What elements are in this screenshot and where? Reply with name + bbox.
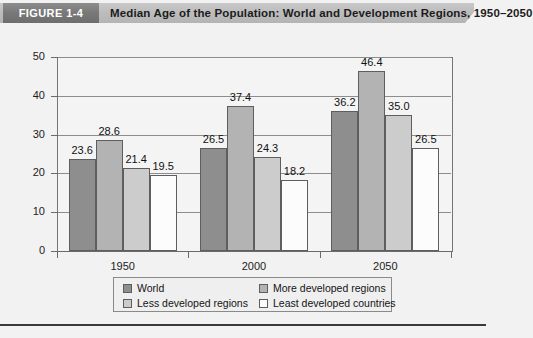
- y-axis-label-0: 0: [5, 244, 45, 256]
- bar-value-label: 24.3: [245, 142, 291, 154]
- chart-legend: WorldMore developed regionsLess develope…: [113, 277, 392, 312]
- legend-swatch-icon: [123, 299, 132, 308]
- figure-number-label: FIGURE 1-4: [3, 3, 99, 23]
- bar-value-label: 46.4: [349, 56, 395, 68]
- bar-value-label: 37.4: [218, 91, 264, 103]
- x-axis-line: [51, 251, 452, 252]
- x-tick-mark-end: [451, 252, 452, 258]
- y-tick-mark-40: [51, 96, 58, 97]
- y-tick-mark-20: [51, 173, 58, 174]
- legend-item-world[interactable]: World: [123, 281, 164, 296]
- legend-swatch-icon: [259, 284, 268, 293]
- y-axis-label-10: 10: [5, 205, 45, 217]
- figure-header: FIGURE 1-4 Median Age of the Population:…: [0, 0, 486, 26]
- figure-number-badge: FIGURE 1-4: [3, 3, 99, 23]
- bar-2050-more-developed-regions: [358, 71, 385, 251]
- x-tick-mark-2000: [188, 252, 189, 258]
- y-axis-label-50: 50: [5, 50, 45, 62]
- figure-title: Median Age of the Population: World and …: [110, 3, 533, 23]
- legend-swatch-icon: [123, 284, 132, 293]
- x-tick-mark-2050: [320, 252, 321, 258]
- legend-item-label: More developed regions: [273, 282, 386, 294]
- bar-value-label: 28.6: [86, 125, 132, 137]
- y-tick-mark-30: [51, 135, 58, 136]
- legend-item-label: Least developed countries: [273, 297, 396, 309]
- y-axis-label-20: 20: [5, 166, 45, 178]
- x-axis-label-1950: 1950: [83, 260, 163, 272]
- legend-item-less-developed-regions[interactable]: Less developed regions: [123, 296, 248, 311]
- legend-swatch-icon: [259, 299, 268, 308]
- y-tick-mark-10: [51, 212, 58, 213]
- bar-2000-more-developed-regions: [227, 106, 254, 251]
- bar-2050-world: [331, 111, 358, 251]
- x-axis-label-2000: 2000: [214, 260, 294, 272]
- bar-value-label: 18.2: [272, 165, 318, 177]
- bar-1950-world: [69, 159, 96, 251]
- figure-bottom-rule: [0, 324, 486, 326]
- x-tick-mark-start: [57, 252, 58, 258]
- legend-item-more-developed-regions[interactable]: More developed regions: [259, 281, 386, 296]
- bar-2000-least-developed-countries: [281, 180, 308, 251]
- bar-value-label: 35.0: [376, 100, 422, 112]
- figure-body: 01020304050 195020002050 23.628.621.419.…: [0, 26, 486, 324]
- bar-2050-least-developed-countries: [412, 148, 439, 251]
- legend-item-label: World: [137, 282, 164, 294]
- bar-value-label: 19.5: [140, 160, 186, 172]
- y-tick-mark-50: [51, 57, 58, 58]
- bar-1950-less-developed-regions: [123, 168, 150, 251]
- x-axis-label-2050: 2050: [345, 260, 425, 272]
- legend-item-label: Less developed regions: [137, 297, 248, 309]
- y-axis-label-30: 30: [5, 128, 45, 140]
- bar-value-label: 26.5: [403, 133, 449, 145]
- bar-2000-world: [200, 148, 227, 251]
- bar-1950-least-developed-countries: [150, 175, 177, 251]
- legend-item-least-developed-countries[interactable]: Least developed countries: [259, 296, 396, 311]
- y-axis-label-40: 40: [5, 89, 45, 101]
